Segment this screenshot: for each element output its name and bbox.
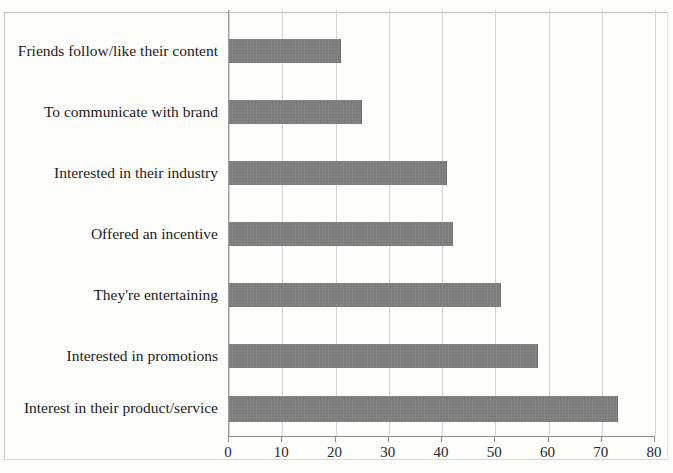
chart-page: Friends follow/like their content To com… — [0, 0, 673, 473]
x-tick-mark — [335, 437, 336, 442]
category-label: They're entertaining — [93, 286, 218, 304]
x-tick-mark — [654, 437, 655, 442]
horizontal-bar-chart: Friends follow/like their content To com… — [0, 0, 673, 473]
x-tick-label: 70 — [581, 444, 621, 461]
x-tick-mark — [548, 437, 549, 442]
gridline-60 — [549, 10, 550, 436]
bar-offered-an-incentive — [229, 222, 453, 246]
x-tick-label: 60 — [528, 444, 568, 461]
bar-interest-in-their-product-service — [229, 396, 618, 422]
x-tick-label: 10 — [261, 444, 301, 461]
bar-to-communicate-with-brand — [229, 100, 362, 124]
x-tick-mark — [281, 437, 282, 442]
gridline-70 — [602, 10, 603, 436]
plot-area — [228, 10, 655, 437]
gridline-80 — [655, 10, 656, 436]
category-label: Interest in their product/service — [24, 399, 218, 417]
bar-interested-in-promotions — [229, 344, 538, 368]
x-tick-mark — [228, 437, 229, 442]
x-tick-label: 20 — [315, 444, 355, 461]
x-tick-label: 0 — [208, 444, 248, 461]
x-axis: 0 10 20 30 40 50 60 70 80 — [228, 437, 656, 467]
category-label: To communicate with brand — [44, 103, 218, 121]
category-label: Interested in promotions — [66, 347, 218, 365]
category-label: Offered an incentive — [91, 225, 218, 243]
x-tick-mark — [441, 437, 442, 442]
bar-theyre-entertaining — [229, 283, 501, 307]
x-tick-mark — [601, 437, 602, 442]
category-label: Friends follow/like their content — [18, 42, 218, 60]
x-tick-mark — [388, 437, 389, 442]
category-axis-labels: Friends follow/like their content To com… — [0, 0, 222, 437]
category-label: Interested in their industry — [54, 164, 218, 182]
x-tick-label: 40 — [421, 444, 461, 461]
x-tick-label: 30 — [368, 444, 408, 461]
x-tick-label: 80 — [634, 444, 673, 461]
gridline-50 — [495, 10, 496, 436]
x-tick-label: 50 — [474, 444, 514, 461]
bar-friends-follow-like-their-content — [229, 39, 341, 63]
bar-interested-in-their-industry — [229, 161, 447, 185]
x-tick-mark — [494, 437, 495, 442]
